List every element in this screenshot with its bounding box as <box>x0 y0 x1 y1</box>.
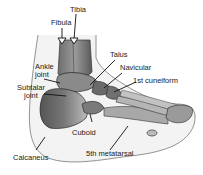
sesamoid <box>147 130 157 136</box>
label-calcaneus: Calcaneus <box>13 154 48 162</box>
label-cuboid: Cuboid <box>72 129 96 137</box>
label-subtalar-joint: Subtalar joint <box>17 84 45 100</box>
label-first-cuneiform: 1st cuneiform <box>133 77 178 85</box>
label-fifth-metatarsal: 5th metatarsal <box>86 150 134 158</box>
label-tibia: Tibia <box>70 6 86 14</box>
label-navicular: Navicular <box>120 64 151 72</box>
label-ankle-joint-line2: joint <box>35 71 54 79</box>
tibia-fibula-shaft <box>58 40 92 78</box>
label-subtalar-joint-line2: joint <box>17 92 45 100</box>
label-ankle-joint: Ankle joint <box>35 63 54 79</box>
foot-anatomy-diagram: Fibula Tibia Talus Navicular 1st cuneifo… <box>0 0 203 175</box>
label-talus: Talus <box>110 51 128 59</box>
label-fibula: Fibula <box>51 19 71 27</box>
